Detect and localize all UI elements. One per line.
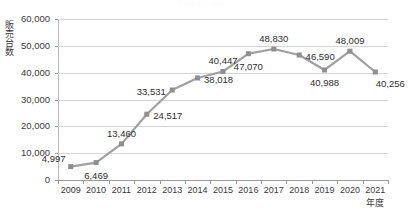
data-point-label: 40,988 [310,77,339,88]
data-point-label: 40,256 [376,77,405,88]
data-point-label: 47,070 [234,60,263,71]
data-point-marker [246,51,251,56]
data-point-marker [373,70,378,75]
series-line [71,49,376,167]
data-point-marker [144,112,149,117]
data-point-label: 48,830 [259,32,288,43]
data-point-label: 4,997 [42,152,66,163]
data-point-marker [297,53,302,58]
data-point-label: 33,531 [137,86,166,97]
series-layer [0,0,408,212]
data-point-marker [68,164,73,169]
data-point-label: 13,460 [107,127,136,138]
data-point-label: 38,018 [204,73,233,84]
data-point-marker [347,49,352,54]
data-point-label: 6,469 [84,169,108,180]
data-point-marker [322,68,327,73]
data-point-marker [94,160,99,165]
sales-line-chart: 販売台数の推移 販売台数 年度 010,00020,00030,00040,00… [0,0,408,212]
data-point-marker [170,88,175,93]
data-point-marker [271,47,276,52]
data-point-label: 46,590 [306,50,335,61]
data-point-marker [195,76,200,81]
data-point-label: 48,009 [335,35,364,46]
data-point-label: 24,517 [153,110,182,121]
data-point-marker [119,141,124,146]
